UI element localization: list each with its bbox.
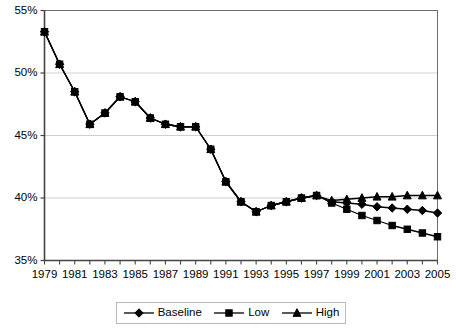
legend-item-baseline: Baseline bbox=[123, 306, 202, 320]
y-tick-label: 55% bbox=[14, 5, 37, 17]
chart-legend: BaselineLowHigh bbox=[116, 302, 346, 324]
series-line bbox=[45, 32, 438, 212]
legend-marker-triangle-icon bbox=[281, 306, 313, 320]
y-tick-label: 50% bbox=[14, 67, 37, 79]
legend-label: Baseline bbox=[157, 307, 202, 319]
series-line bbox=[45, 32, 438, 213]
legend-marker-square-icon bbox=[213, 306, 245, 320]
marker-square bbox=[226, 310, 232, 316]
legend-marker-diamond-icon bbox=[123, 306, 155, 320]
marker-diamond bbox=[373, 203, 381, 211]
legend-item-low: Low bbox=[213, 306, 269, 320]
marker-diamond bbox=[134, 309, 142, 317]
y-tick-label: 35% bbox=[14, 255, 37, 267]
line-chart: 35%40%45%50%55% 197919811983198519871989… bbox=[0, 0, 456, 331]
marker-square bbox=[374, 217, 380, 223]
marker-square bbox=[389, 222, 395, 228]
marker-square bbox=[344, 206, 350, 212]
marker-diamond bbox=[433, 209, 441, 217]
marker-diamond bbox=[403, 205, 411, 213]
legend-label: High bbox=[315, 307, 340, 319]
series-high bbox=[41, 27, 442, 215]
marker-square bbox=[434, 234, 440, 240]
chart-plot-area bbox=[0, 0, 456, 331]
marker-square bbox=[359, 212, 365, 218]
legend-label: Low bbox=[247, 307, 269, 319]
series-baseline bbox=[40, 28, 441, 218]
y-gridlines bbox=[45, 73, 438, 198]
y-tick-label: 40% bbox=[14, 192, 37, 204]
y-tick-label: 45% bbox=[14, 130, 37, 142]
marker-diamond bbox=[418, 206, 426, 214]
marker-square bbox=[404, 226, 410, 232]
x-tick-label: 2005 bbox=[418, 269, 456, 281]
series-low bbox=[41, 29, 440, 240]
legend-item-high: High bbox=[281, 306, 340, 320]
marker-square bbox=[419, 230, 425, 236]
marker-diamond bbox=[388, 204, 396, 212]
